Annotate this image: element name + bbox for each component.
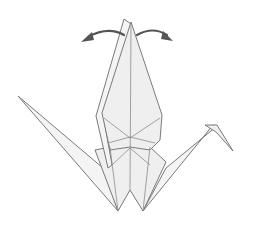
left-arrow-head-icon xyxy=(81,32,94,42)
origami-crane-diagram xyxy=(0,0,254,231)
right-arrow-head-icon xyxy=(161,31,173,41)
crane-front-wing-flap xyxy=(102,22,162,150)
